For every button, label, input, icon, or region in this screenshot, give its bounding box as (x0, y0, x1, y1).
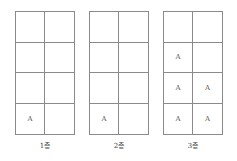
floor-2-label: 2층 (89, 140, 149, 150)
grid-cell: A (16, 104, 45, 135)
grid-cell: A (90, 104, 119, 135)
grid-cell: A (193, 104, 222, 135)
floor-1-grid: A (15, 11, 75, 135)
grid-cell: A (164, 43, 193, 74)
floor-2-grid: A (89, 11, 149, 135)
grid-cell (90, 73, 119, 104)
grid-cell (193, 43, 222, 74)
grid-cell (45, 104, 74, 135)
grid-cell (45, 43, 74, 74)
grid-cell: A (164, 73, 193, 104)
grid-cell (45, 73, 74, 104)
grid-cell (16, 73, 45, 104)
floor-3-label: 3층 (163, 140, 223, 150)
grid-cell (119, 12, 148, 43)
grid-cell: A (193, 73, 222, 104)
grid-cell (164, 12, 193, 43)
grid-cell (90, 12, 119, 43)
grid-cell (16, 43, 45, 74)
floor-1-label: 1층 (15, 140, 75, 150)
grid-cell: A (164, 104, 193, 135)
grid-cell (45, 12, 74, 43)
grid-cell (119, 43, 148, 74)
grid-cell (119, 104, 148, 135)
grid-cell (90, 43, 119, 74)
grid-cell (193, 12, 222, 43)
floor-3-grid: A A A A A (163, 11, 223, 135)
grid-cell (119, 73, 148, 104)
grid-cell (16, 12, 45, 43)
